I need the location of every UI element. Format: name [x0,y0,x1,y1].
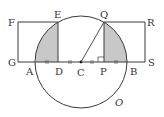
label-R: R [147,17,155,28]
label-P: P [100,66,107,77]
shaded-region-right [104,22,128,62]
label-S: S [148,57,155,68]
label-G: G [8,57,16,68]
label-Q: Q [100,9,108,20]
center-point-C [80,61,83,64]
label-E: E [54,9,61,20]
right-angle-mark [98,57,104,62]
label-A: A [25,66,34,77]
geometry-figure: F E Q R G A D C P B S O [0,0,164,117]
label-F: F [8,17,15,28]
label-D: D [55,66,63,77]
segment-CQ [81,22,104,62]
label-B: B [130,66,137,77]
label-O: O [115,97,123,108]
label-C: C [77,67,85,78]
